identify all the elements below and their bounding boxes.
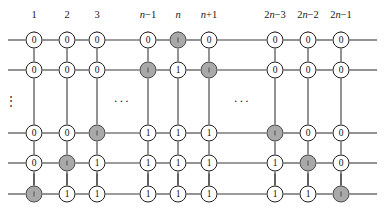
grid-node-r5-c3[interactable]: 1	[89, 186, 106, 203]
grid-node-r2-c7[interactable]: 0	[267, 62, 284, 79]
grid-node-r5-c4[interactable]: 1	[140, 186, 157, 203]
grid-node-r4-c4[interactable]: 1	[140, 155, 157, 172]
node-value: 0	[207, 35, 212, 45]
grid-graph-figure: 123n−1nn+12n−32n−22n−1 00000000000001000…	[0, 0, 385, 218]
grid-node-r2-c8[interactable]: 0	[300, 62, 317, 79]
node-value: 1	[207, 128, 212, 138]
grid-node-r1-c5[interactable]: 0	[170, 32, 187, 49]
node-value: 0	[95, 65, 100, 75]
node-value: 0	[339, 65, 344, 75]
node-value: 0	[32, 128, 37, 138]
grid-node-r2-c1[interactable]: 0	[26, 62, 43, 79]
node-value: 0	[339, 128, 344, 138]
grid-node-r4-c7[interactable]: 1	[267, 155, 284, 172]
node-value: 1	[65, 189, 70, 199]
grid-node-r1-c8[interactable]: 0	[300, 32, 317, 49]
node-value: 1	[176, 128, 181, 138]
node-value: 1	[146, 158, 151, 168]
node-value: 0	[32, 65, 37, 75]
node-value: 0	[339, 158, 344, 168]
grid-node-r4-c5[interactable]: 1	[170, 155, 187, 172]
grid-node-r1-c6[interactable]: 0	[201, 32, 218, 49]
grid-node-r1-c7[interactable]: 0	[267, 32, 284, 49]
grid-node-r1-c1[interactable]: 0	[26, 32, 43, 49]
grid-node-r4-c1[interactable]: 0	[26, 155, 43, 172]
grid-node-r2-c3[interactable]: 0	[89, 62, 106, 79]
column-label-col-3: 3	[94, 9, 99, 20]
node-value: 0	[65, 128, 70, 138]
node-value: 1	[207, 189, 212, 199]
node-value: 1	[146, 128, 151, 138]
node-value: 0	[146, 35, 151, 45]
grid-node-r5-c8[interactable]: 1	[300, 186, 317, 203]
node-value: 0	[339, 35, 344, 45]
node-value: 1	[146, 189, 151, 199]
column-label-col-2nm2: 2n−2	[297, 9, 319, 20]
grid-node-r1-c2[interactable]: 0	[59, 32, 76, 49]
vertical-ellipsis: ⋮	[5, 97, 17, 106]
node-value: 1	[176, 189, 181, 199]
grid-node-r2-c9[interactable]: 0	[333, 62, 350, 79]
grid-node-r3-c1[interactable]: 0	[26, 125, 43, 142]
node-value: 0	[32, 158, 37, 168]
column-label-col-2nm1: 2n−1	[330, 9, 352, 20]
node-value: 1	[306, 189, 311, 199]
grid-node-r4-c9[interactable]: 0	[333, 155, 350, 172]
column-label-col-1: 1	[31, 9, 36, 20]
grid-node-r3-c5[interactable]: 1	[170, 125, 187, 142]
grid-node-r3-c3[interactable]: 0	[89, 125, 106, 142]
node-value: 1	[207, 158, 212, 168]
node-value: 1	[273, 189, 278, 199]
column-label-col-np1: n+1	[201, 9, 217, 20]
node-value: 0	[273, 35, 278, 45]
grid-node-r3-c8[interactable]: 0	[300, 125, 317, 142]
node-value: 0	[95, 35, 100, 45]
node-value: 1	[95, 189, 100, 199]
node-value: 0	[65, 65, 70, 75]
column-label-col-2nm3: 2n−3	[264, 9, 286, 20]
grid-node-r5-c6[interactable]: 1	[201, 186, 218, 203]
node-value: 0	[306, 35, 311, 45]
node-value: 1	[95, 158, 100, 168]
grid-node-r2-c5[interactable]: 1	[170, 62, 187, 79]
grid-node-r2-c4[interactable]: 0	[140, 62, 157, 79]
node-value: 1	[176, 158, 181, 168]
node-value: 0	[306, 65, 311, 75]
grid-node-r5-c7[interactable]: 1	[267, 186, 284, 203]
hdots-right: ···	[233, 93, 250, 109]
column-label-col-n: n	[175, 9, 180, 20]
grid-node-r1-c4[interactable]: 0	[140, 32, 157, 49]
grid-node-r3-c6[interactable]: 1	[201, 125, 218, 142]
grid-node-r4-c3[interactable]: 1	[89, 155, 106, 172]
hdots-left: ···	[113, 93, 130, 109]
column-label-col-2: 2	[64, 9, 69, 20]
node-value: 1	[273, 158, 278, 168]
grid-node-r5-c9[interactable]: 1	[333, 186, 350, 203]
grid-edges-layer	[0, 0, 385, 218]
node-value: 0	[32, 35, 37, 45]
grid-node-r4-c6[interactable]: 1	[201, 155, 218, 172]
grid-node-r1-c3[interactable]: 0	[89, 32, 106, 49]
column-label-col-nm1: n−1	[140, 9, 156, 20]
node-value: 0	[65, 35, 70, 45]
grid-node-r1-c9[interactable]: 0	[333, 32, 350, 49]
grid-node-r3-c4[interactable]: 1	[140, 125, 157, 142]
grid-node-r4-c8[interactable]: 1	[300, 155, 317, 172]
node-value: 1	[176, 65, 181, 75]
node-value: 0	[306, 128, 311, 138]
grid-node-r3-c9[interactable]: 0	[333, 125, 350, 142]
grid-node-r5-c1[interactable]: 1	[26, 186, 43, 203]
grid-node-r3-c7[interactable]: 0	[267, 125, 284, 142]
node-value: 0	[273, 65, 278, 75]
grid-node-r2-c6[interactable]: 0	[201, 62, 218, 79]
grid-node-r4-c2[interactable]: 0	[59, 155, 76, 172]
grid-node-r5-c5[interactable]: 1	[170, 186, 187, 203]
grid-node-r3-c2[interactable]: 0	[59, 125, 76, 142]
grid-node-r2-c2[interactable]: 0	[59, 62, 76, 79]
grid-node-r5-c2[interactable]: 1	[59, 186, 76, 203]
